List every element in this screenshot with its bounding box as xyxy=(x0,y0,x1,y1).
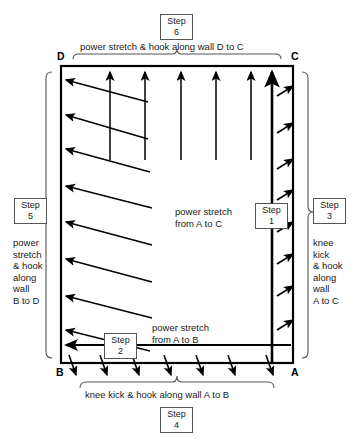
step-1-description-line1: power stretch xyxy=(175,206,232,218)
step-3-box-label: Step xyxy=(320,200,339,210)
step-1-description-line2: from A to C xyxy=(175,218,222,230)
bottom-brace xyxy=(80,376,274,388)
step-4-box-label: Step xyxy=(167,409,186,419)
top-vertical-arrows xyxy=(110,72,251,160)
left-diagonal-arrows xyxy=(66,80,152,351)
corner-label-b: B xyxy=(56,366,64,378)
corner-label-c: C xyxy=(291,50,299,62)
step-1-box[interactable]: Step 1 xyxy=(255,203,288,229)
step-2-box[interactable]: Step 2 xyxy=(104,333,137,359)
step-2-number: 2 xyxy=(107,346,134,357)
step-5-number: 5 xyxy=(17,211,44,222)
step-6-box[interactable]: Step 6 xyxy=(160,14,193,40)
step-5-description: power stretch & hook along wall B to D xyxy=(13,237,43,306)
step-1-box-label: Step xyxy=(262,205,281,215)
step-6-number: 6 xyxy=(163,27,190,38)
diagram-canvas: D C B A Step 6 power stretch & hook alon… xyxy=(0,0,354,443)
step-5-box-label: Step xyxy=(21,200,40,210)
corner-label-a: A xyxy=(291,366,299,378)
right-brace xyxy=(302,72,313,358)
step-4-number: 4 xyxy=(163,420,190,431)
step-1-number: 1 xyxy=(258,216,285,227)
step-5-box[interactable]: Step 5 xyxy=(14,198,47,224)
bottom-wall-arrows xyxy=(69,355,273,375)
step-4-description: knee kick & hook along wall A to B xyxy=(85,389,229,400)
step-2-description-line2: from A to B xyxy=(152,334,198,346)
step-3-box[interactable]: Step 3 xyxy=(313,198,346,224)
step-3-description: knee kick & hook along wall A to C xyxy=(313,237,343,306)
step-3-number: 3 xyxy=(316,211,343,222)
step-6-description: power stretch & hook along wall D to C xyxy=(80,41,244,52)
step-6-box-label: Step xyxy=(167,16,186,26)
corner-label-d: D xyxy=(57,50,65,62)
step-2-box-label: Step xyxy=(111,335,130,345)
step-2-description-line1: power stretch xyxy=(152,322,209,334)
step-4-box[interactable]: Step 4 xyxy=(160,407,193,433)
